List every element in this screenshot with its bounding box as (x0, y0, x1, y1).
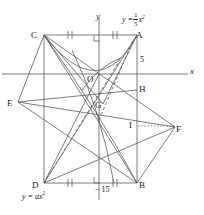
segment-DO (44, 74, 99, 183)
equation-lower-exponent: 2 (43, 190, 46, 196)
point-label-I: I (129, 120, 132, 130)
point-label-O: O (87, 74, 94, 84)
upper-parabola (44, 35, 137, 71)
equation-lower-parabola: y = ax2 (22, 190, 45, 201)
segment-EB (18, 102, 137, 183)
point-label-D: D (32, 180, 39, 190)
point-label-F: F (176, 124, 181, 134)
point-label-G: G (95, 100, 102, 110)
equation-upper-prefix: y = (122, 15, 133, 24)
measure-label-5: 5 (140, 55, 144, 64)
segment-EH (18, 90, 137, 102)
point-label-H: H (139, 84, 146, 94)
measure-label-minus-15: − 15 (95, 185, 110, 194)
segment-CE (18, 35, 44, 102)
equation-upper-parabola: y =15x2 (122, 12, 145, 28)
point-label-E: E (7, 98, 13, 108)
x-axis-label: x (190, 66, 194, 76)
geometry-figure: A C B D E F G H I O x y y =15x2 y = ax2 … (0, 0, 204, 215)
point-label-A: A (136, 30, 143, 40)
segment-DB-to-F (44, 127, 175, 183)
y-axis-label: y (96, 11, 100, 21)
equation-lower-text: y = ax (22, 192, 43, 201)
point-label-C: C (31, 30, 37, 40)
equation-upper-exponent: 2 (142, 14, 145, 20)
point-label-B: B (139, 180, 145, 190)
dashed-O-to-A (99, 40, 133, 120)
